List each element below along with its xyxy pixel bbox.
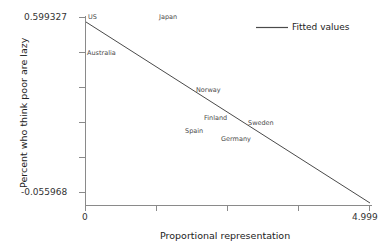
chart-canvas bbox=[0, 0, 385, 252]
point-label-sweden: Sweden bbox=[248, 120, 274, 127]
scatter-plot-figure: 0.599327 -0.055968 0 4.999 Percent who t… bbox=[0, 0, 385, 252]
y-axis-label-max: 0.599327 bbox=[24, 13, 67, 22]
point-label-norway: Norway bbox=[196, 87, 221, 94]
y-axis-label-min: -0.055968 bbox=[21, 188, 67, 197]
x-axis-label-min: 0 bbox=[82, 213, 88, 222]
y-axis-title: Percent who think poor are lazy bbox=[19, 38, 29, 188]
x-axis-label-max: 4.999 bbox=[352, 213, 378, 222]
fitted-values-line bbox=[86, 22, 370, 203]
legend-entry-fitted-values: Fitted values bbox=[292, 23, 349, 32]
point-label-us: US bbox=[88, 14, 97, 21]
x-axis-title: Proportional representation bbox=[160, 231, 290, 241]
point-label-spain: Spain bbox=[185, 128, 203, 135]
point-label-finland: Finland bbox=[204, 115, 227, 122]
point-label-japan: Japan bbox=[159, 14, 177, 21]
point-label-germany: Germany bbox=[221, 136, 251, 143]
point-label-australia: Australia bbox=[87, 50, 116, 57]
